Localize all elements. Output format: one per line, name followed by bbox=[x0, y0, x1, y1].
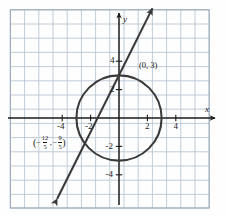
x-tick-label-neg2: -2 bbox=[85, 122, 93, 131]
intersection-label-lower: ( − 12 5 , − 9 5 ) bbox=[33, 135, 65, 150]
coordinate-plane-svg bbox=[0, 0, 226, 216]
numerator-12: 12 bbox=[42, 135, 49, 142]
numerator-9: 9 bbox=[58, 135, 61, 142]
fraction-twelve-fifths: 12 5 bbox=[42, 135, 49, 150]
graph-figure: -4 -2 2 4 4 2 -2 -4 x y (0, 3) ( − 12 5 … bbox=[0, 0, 226, 216]
fraction-nine-fifths: 9 5 bbox=[58, 135, 61, 150]
denominator-5: 5 bbox=[43, 142, 46, 150]
comma-separator: , bbox=[50, 139, 52, 147]
x-tick-label-2: 2 bbox=[145, 122, 150, 131]
y-tick-label-2: 2 bbox=[110, 85, 115, 94]
intersection-label-upper: (0, 3) bbox=[139, 61, 157, 70]
minus-sign-1: − bbox=[36, 139, 41, 147]
y-tick-label-neg4: -4 bbox=[106, 170, 114, 179]
minus-sign-2: − bbox=[53, 139, 58, 147]
close-paren: ) bbox=[62, 138, 65, 148]
x-tick-label-4: 4 bbox=[174, 122, 179, 131]
y-tick-label-4: 4 bbox=[110, 56, 115, 65]
y-axis-label: y bbox=[123, 15, 127, 24]
y-tick-label-neg2: -2 bbox=[106, 142, 114, 151]
x-axis-label: x bbox=[205, 105, 209, 114]
denominator-5b: 5 bbox=[58, 142, 61, 150]
x-tick-label-neg4: -4 bbox=[57, 122, 65, 131]
